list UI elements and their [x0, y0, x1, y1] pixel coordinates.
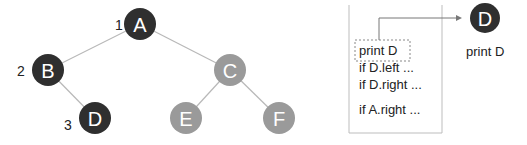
output-caption: print D [466, 43, 504, 60]
node-d-label: D [88, 108, 102, 130]
node-e-label: E [179, 108, 192, 130]
code-line-left: if D.left ... [359, 59, 414, 76]
node-a-label: A [133, 14, 147, 36]
node-b: B 2 [17, 54, 64, 86]
output-node-label: D [478, 8, 492, 30]
arrow-head-icon [456, 15, 462, 21]
output-arrow [379, 18, 459, 40]
node-c: C [214, 54, 246, 86]
order-1: 1 [115, 17, 123, 33]
code-line-right: if D.right ... [359, 76, 422, 93]
node-e: E [170, 102, 202, 134]
output-node-d: D [470, 3, 500, 33]
tree-diagram: A 1 B 2 D 3 C E F D [0, 0, 527, 145]
code-line-a-right: if A.right ... [359, 101, 420, 118]
order-2: 2 [17, 63, 25, 79]
node-f: F [263, 102, 295, 134]
node-a: A 1 [115, 8, 156, 40]
code-line-print: print D [359, 42, 397, 59]
order-3: 3 [64, 117, 72, 133]
node-d: D 3 [64, 102, 111, 134]
node-b-label: B [41, 60, 54, 82]
node-f-label: F [273, 108, 285, 130]
node-c-label: C [223, 60, 237, 82]
